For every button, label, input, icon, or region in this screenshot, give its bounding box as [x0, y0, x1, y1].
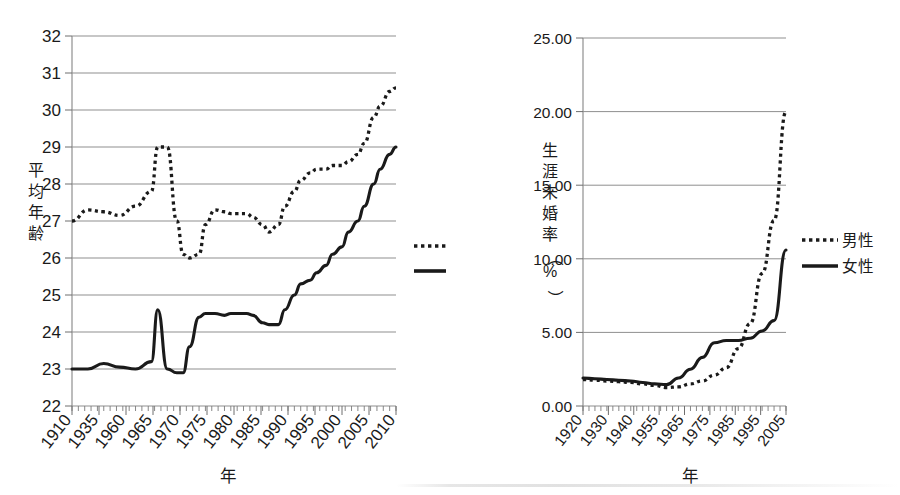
gridlines-right [583, 38, 786, 332]
figure-page: 2223242526272829303132 19101935196019651… [0, 0, 900, 495]
legend-label-male: 男性 [842, 232, 874, 249]
marriage-age-svg: 2223242526272829303132 19101935196019651… [0, 0, 450, 495]
x-tick-label: 1955 [627, 411, 662, 449]
y-tick-label: 5.00 [542, 324, 573, 341]
series-line-2 [72, 147, 396, 373]
y-tick-label: 27 [42, 212, 61, 231]
y-tick-label: 23 [42, 360, 61, 379]
x-tick-label: 1930 [576, 411, 611, 449]
y-tick-marks-left [65, 36, 72, 406]
y-tick-label: 31 [42, 64, 61, 83]
y-tick-label: 25 [42, 286, 61, 305]
y-tick-label: 25.00 [533, 30, 572, 47]
x-tick-label: 1920 [551, 411, 586, 449]
y-axis-title-left: 平 均 年 齢 [28, 162, 44, 242]
y-axis-title-char-3: 婚 [542, 205, 558, 222]
scan-artifact-line [0, 484, 900, 487]
y-axis-title-char-1: 均 [28, 183, 44, 200]
y-tick-marks-right [576, 38, 583, 406]
y-tick-label: 30 [42, 101, 61, 120]
y-tick-label: 26 [42, 249, 61, 268]
y-axis-title-char-0: 平 [28, 162, 44, 179]
x-tick-label: 1975 [678, 411, 713, 449]
y-axis-title-right: 生 涯 未 婚 率 （ % ） [542, 142, 564, 306]
series-plot-right [583, 112, 786, 388]
y-axis-title-char-6: % [543, 263, 557, 280]
y-axis-title-char-2: 年 [28, 204, 44, 221]
x-tick-marks-right [583, 406, 786, 415]
x-tick-label: 1995 [728, 411, 763, 449]
y-tick-label: 28 [42, 175, 61, 194]
y-tick-labels-right: 0.005.0010.0015.0020.0025.00 [533, 30, 572, 415]
x-tick-marks-left [72, 406, 396, 415]
y-axis-title-char-3: 齢 [28, 225, 44, 242]
y-axis-title-char-0: 生 [542, 142, 558, 159]
y-tick-label: 24 [42, 323, 61, 342]
x-tick-label: 1965 [652, 411, 687, 449]
y-tick-labels-left: 2223242526272829303132 [42, 27, 61, 416]
x-axis-title-right: 年 [682, 467, 699, 485]
x-axis-title-left: 年 [220, 467, 237, 485]
x-tick-labels-left: 1910193519601965197019751980198519901995… [37, 411, 399, 453]
x-tick-label: 1985 [703, 411, 738, 449]
chart-marriage-age: 2223242526272829303132 19101935196019651… [0, 0, 450, 495]
series-line-2 [583, 250, 786, 385]
gridlines-left [72, 36, 396, 369]
y-tick-label: 20.00 [533, 104, 572, 121]
legend-right: 男性 女性 [802, 232, 874, 275]
x-tick-label: 2005 [754, 411, 789, 449]
y-axis-title-char-2: 未 [542, 184, 558, 201]
chart-lifetime-unmarried-rate: 0.005.0010.0015.0020.0025.00 19201930194… [450, 0, 900, 495]
y-axis-title-char-1: 涯 [542, 163, 558, 180]
y-tick-label: 32 [42, 27, 61, 46]
axis-right [583, 38, 786, 406]
x-tick-label: 2010 [361, 411, 399, 453]
y-tick-label: 0.00 [542, 398, 573, 415]
series-line-1 [583, 112, 786, 388]
legend-label-female: 女性 [842, 257, 874, 275]
x-tick-labels-right: 192019301940195519651975198519952005 [551, 411, 789, 449]
legend-left: 夫 妻 [414, 238, 450, 280]
y-axis-title-char-4: 率 [542, 226, 558, 243]
lifetime-unmarried-rate-svg: 0.005.0010.0015.0020.0025.00 19201930194… [450, 0, 900, 495]
x-tick-label: 1940 [601, 411, 636, 449]
y-tick-label: 29 [42, 138, 61, 157]
series-plot-left [72, 88, 396, 373]
y-axis-title-char-7: ） [547, 290, 564, 306]
